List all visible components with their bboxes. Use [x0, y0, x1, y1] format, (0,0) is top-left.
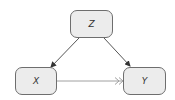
- node-x[interactable]: X: [15, 67, 57, 95]
- edge-z-to-y: [104, 38, 130, 66]
- node-y-label: Y: [142, 76, 148, 86]
- node-y[interactable]: Y: [123, 67, 166, 95]
- node-z-label: Z: [88, 19, 94, 29]
- node-x-label: X: [33, 76, 39, 86]
- node-z[interactable]: Z: [70, 10, 113, 38]
- edge-z-to-x: [51, 38, 79, 67]
